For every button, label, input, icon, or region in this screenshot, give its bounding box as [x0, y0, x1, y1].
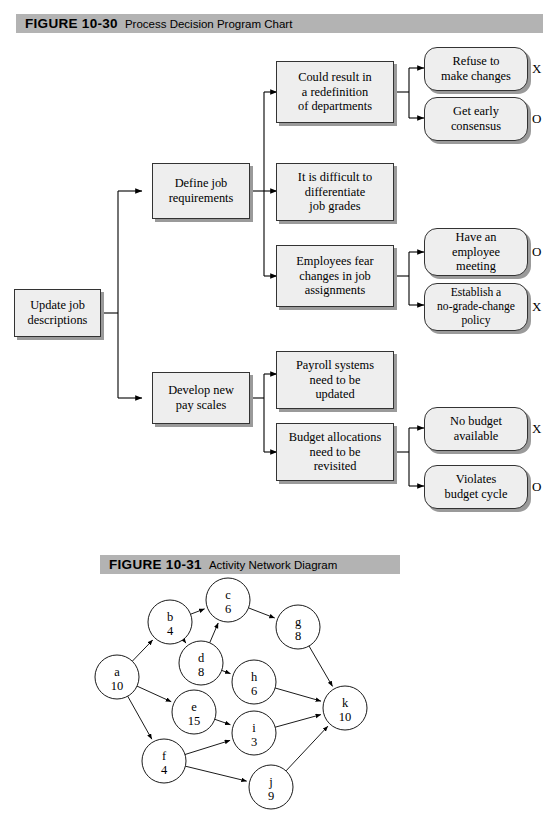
network-node-id: g: [295, 615, 302, 629]
network-edge: [222, 670, 231, 673]
network-node-duration: 4: [161, 763, 168, 777]
network-node-id: b: [167, 610, 173, 624]
network-node-d[interactable]: d8: [179, 641, 223, 685]
network-edge: [286, 726, 328, 771]
network-node-g[interactable]: g8: [276, 605, 320, 649]
network-node-duration: 8: [295, 629, 301, 643]
network-node-i[interactable]: i3: [232, 711, 276, 755]
network-edge: [185, 740, 230, 754]
network-node-duration: 9: [268, 789, 274, 803]
network-node-id: h: [251, 670, 258, 684]
network-node-duration: 3: [251, 735, 257, 749]
network-node-id: e: [191, 700, 197, 714]
network-node-k[interactable]: k10: [323, 686, 367, 730]
network-node-c[interactable]: c6: [206, 578, 250, 622]
network-node-id: d: [198, 651, 205, 665]
activity-network-diagram: a10b4c6d8e15f4g8h6i3j9k10: [0, 0, 557, 823]
network-edge: [309, 646, 333, 686]
network-edge: [191, 609, 205, 614]
network-node-a[interactable]: a10: [95, 655, 139, 699]
network-edge: [183, 640, 186, 644]
network-node-f[interactable]: f4: [142, 739, 186, 783]
network-node-duration: 6: [225, 602, 231, 616]
network-edge: [275, 688, 321, 701]
network-node-b[interactable]: b4: [148, 600, 192, 644]
network-edge: [249, 608, 275, 618]
network-node-e[interactable]: e15: [172, 690, 216, 734]
network-node-duration: 10: [111, 679, 124, 693]
network-node-id: j: [268, 775, 272, 789]
network-edge: [210, 623, 219, 643]
network-node-id: c: [225, 588, 231, 602]
network-node-id: k: [342, 696, 349, 710]
network-node-duration: 15: [188, 714, 201, 728]
network-edge: [215, 719, 231, 724]
network-node-duration: 4: [167, 624, 174, 638]
network-edge: [275, 715, 321, 728]
network-edge: [185, 766, 246, 781]
network-edge: [128, 696, 152, 739]
network-node-duration: 6: [251, 684, 257, 698]
network-node-id: i: [252, 721, 256, 735]
network-node-duration: 8: [198, 665, 204, 679]
network-node-h[interactable]: h6: [232, 660, 276, 704]
network-edge: [137, 686, 171, 702]
network-node-j[interactable]: j9: [249, 765, 293, 809]
network-node-id: a: [114, 665, 120, 679]
network-node-duration: 10: [339, 710, 352, 724]
network-edge: [132, 640, 152, 661]
